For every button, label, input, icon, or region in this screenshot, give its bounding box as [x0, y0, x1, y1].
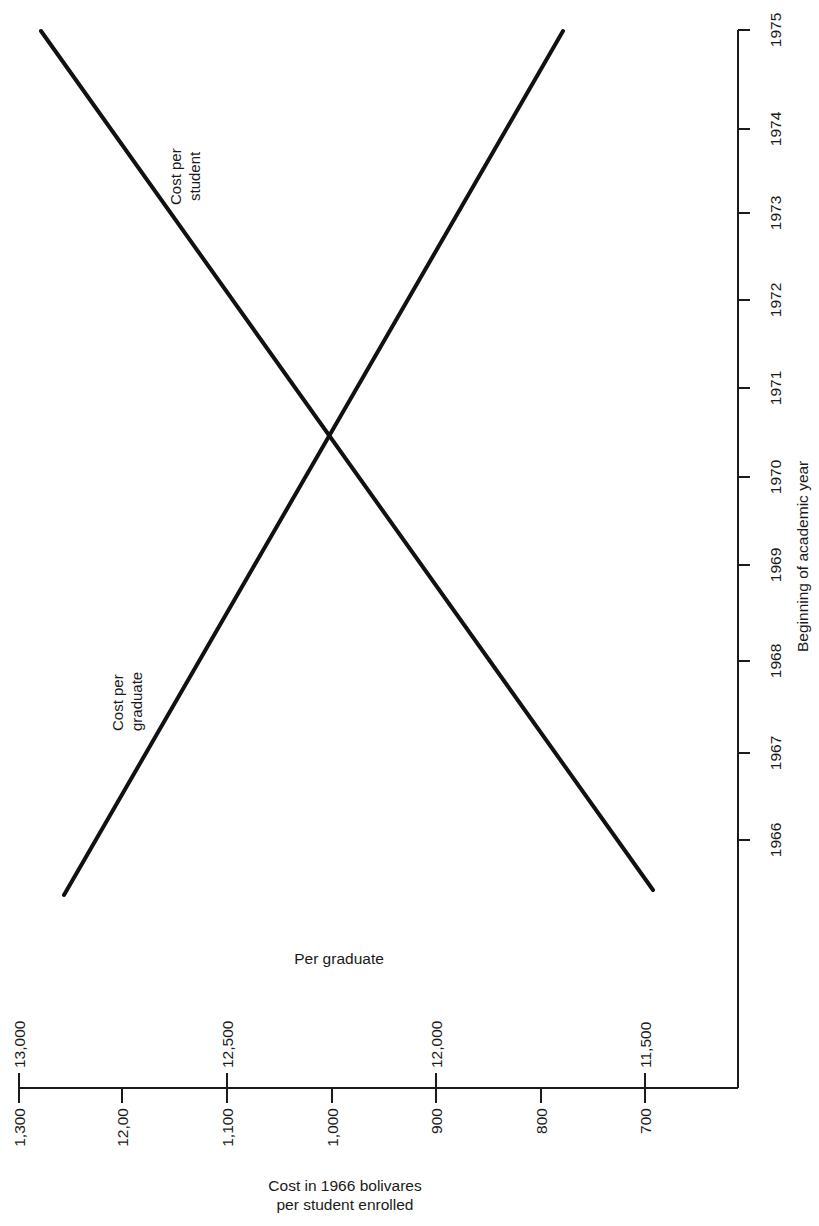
cost-axis-title: Cost in 1966 bolivares per student enrol…: [200, 1176, 490, 1214]
year-axis-title: Beginning of academic year: [794, 461, 811, 652]
per-graduate-axis-label: Per graduate: [294, 950, 384, 967]
cost-per-graduate-label: Cost per graduate: [109, 670, 145, 731]
cost-per-student-tick-label: 1,000: [324, 1108, 341, 1147]
year-tick-label: 1967: [767, 736, 784, 770]
cost-per-student-tick-label: 800: [533, 1108, 550, 1134]
year-tick-label: 1970: [767, 459, 784, 494]
cost-per-graduate-tick-label: 12,000: [428, 1020, 445, 1068]
cost-chart: 1966196719681969197019711972197319741975…: [0, 0, 819, 1226]
axes: [19, 30, 738, 1088]
cost-per-student-tick-label: 900: [428, 1108, 445, 1134]
cost-per-student-tick-label: 12,00: [114, 1108, 131, 1147]
cost-per-graduate-tick-label: 12,500: [219, 1020, 236, 1068]
cost-per-student-tick-label: 1,300: [11, 1108, 28, 1147]
year-ticks: 1966196719681969197019711972197319741975: [738, 13, 784, 857]
cost-axis-title-line-1: Cost in 1966 bolivares: [200, 1176, 490, 1195]
cost-per-student-tick-label: 1,100: [219, 1108, 236, 1147]
year-tick-label: 1966: [767, 823, 784, 857]
cost-per-student-tick-label: 700: [637, 1108, 654, 1134]
cost-per-student-line: [41, 31, 653, 890]
cost-ticks: 1,30012,001,1001,00090080070013,00012,50…: [11, 1020, 654, 1147]
year-tick-label: 1972: [767, 283, 784, 317]
cost-per-graduate-tick-label: 13,000: [11, 1020, 28, 1068]
cost-axis-title-line-2: per student enrolled: [200, 1195, 490, 1214]
year-tick-label: 1974: [767, 111, 784, 146]
year-tick-label: 1971: [767, 371, 784, 405]
year-tick-label: 1968: [767, 644, 784, 678]
cost-per-graduate-tick-label: 11,500: [637, 1021, 654, 1068]
cost-per-student-label: Cost per student: [167, 144, 203, 205]
year-tick-label: 1973: [767, 196, 784, 230]
cost-per-graduate-line: [64, 31, 563, 895]
year-tick-label: 1969: [767, 548, 784, 582]
year-tick-label: 1975: [767, 13, 784, 47]
